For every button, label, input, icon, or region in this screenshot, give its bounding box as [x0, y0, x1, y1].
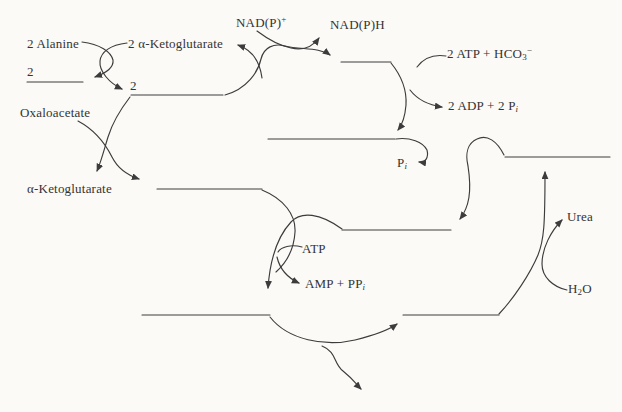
arrow-return-to-ketoglutarate: [238, 45, 262, 78]
label-pi: Pi: [397, 155, 407, 170]
hook-atp-in: [278, 246, 302, 252]
pathway-drawing: [0, 0, 622, 412]
arrow-h2o-to-urea: [542, 220, 567, 290]
arrow-blank2-to-blank3: [225, 45, 330, 95]
arrow-oxaloacetate-to-blank7: [78, 121, 139, 179]
coefficient-blank1: 2: [27, 64, 34, 79]
label-h2o: H2O: [568, 281, 592, 296]
curve-blank7-down: [262, 190, 295, 272]
label-urea: Urea: [567, 209, 593, 224]
arrow-out-adp-pi: [410, 90, 442, 107]
arrow-blank3-to-blank4: [391, 63, 406, 130]
arrow-blank8-to-blank9: [270, 317, 397, 343]
coefficient-blank2: 2: [130, 78, 137, 93]
label-2-ketoglutarate: 2 α-Ketoglutarate: [128, 36, 223, 51]
label-nadph: NAD(P)H: [330, 17, 385, 32]
label-2adp-2pi: 2 ADP + 2 Pi: [448, 98, 518, 113]
label-2atp-hco3: 2 ATP + HCO3−: [447, 46, 532, 61]
label-atp: ATP: [302, 241, 326, 256]
arrow-blank5-to-blank6: [460, 137, 504, 219]
arrow-alanine-to-blank1: [82, 42, 113, 77]
label-ketoglutarate: α-Ketoglutarate: [27, 181, 112, 196]
metabolic-pathway-diagram: 2 Alanine 2 α-Ketoglutarate NAD(P)+ NAD(…: [0, 0, 622, 412]
arrow-product-out-wavy: [322, 346, 361, 389]
label-nadp-plus: NAD(P)+: [236, 15, 287, 30]
arrow-out-amp-ppi: [277, 257, 299, 283]
hook-atp-hco3-in: [417, 56, 446, 67]
arrow-ketoglutarate-to-blank2: [100, 43, 127, 89]
label-oxaloacetate: Oxaloacetate: [20, 105, 90, 120]
arrow-blank9-to-blank5: [499, 172, 545, 314]
label-2-alanine: 2 Alanine: [27, 36, 79, 51]
label-amp-ppi: AMP + PPi: [305, 276, 365, 291]
